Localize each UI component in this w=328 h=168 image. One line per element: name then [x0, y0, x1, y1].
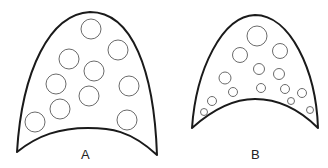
circle [257, 84, 266, 93]
circle [274, 69, 285, 80]
circle [281, 85, 290, 94]
circle [233, 48, 248, 63]
circle [108, 40, 128, 60]
circle [254, 64, 265, 75]
circle [288, 98, 295, 105]
circle [307, 107, 314, 114]
circle [50, 99, 70, 119]
circle [219, 72, 231, 84]
figure-a-outline [17, 12, 157, 155]
circle [25, 112, 45, 132]
circle [229, 88, 238, 97]
circle [59, 49, 79, 69]
figure-a-label: A [81, 147, 90, 162]
circle [119, 76, 139, 96]
circle [84, 61, 104, 81]
figure-b-label: B [251, 147, 260, 162]
diagram-canvas [0, 0, 328, 168]
figure-b [192, 15, 318, 128]
figure-b-circles [201, 26, 314, 116]
circle [117, 110, 137, 130]
circle [201, 109, 208, 116]
circle [273, 44, 288, 59]
figure-a-circles [25, 19, 139, 132]
circle [208, 97, 217, 106]
figure-a [17, 12, 157, 155]
circle [247, 26, 267, 46]
circle [81, 19, 101, 39]
circle [46, 74, 66, 94]
circle [298, 89, 307, 98]
figure-b-outline [192, 15, 318, 128]
circle [79, 86, 99, 106]
